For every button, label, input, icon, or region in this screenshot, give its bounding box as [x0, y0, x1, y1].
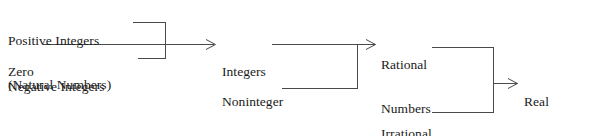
node-irrational-numbers: Irrational Numbers [381, 98, 432, 136]
node-rational-numbers-line1: Rational [381, 58, 431, 73]
node-negative-integers: Negative Integers [8, 51, 104, 124]
number-classification-diagram: Positive Integers (Natural Numbers) Zero… [0, 0, 599, 136]
arrowhead-into-integers [206, 40, 216, 50]
node-noninteger-rational-numbers-line1: Noninteger [222, 95, 283, 110]
node-negative-integers-line1: Negative Integers [8, 80, 104, 95]
node-noninteger-rational-numbers: Noninteger Rational Numbers [222, 66, 283, 136]
arrowhead-into-rational-numbers [366, 40, 376, 50]
arrowhead-into-real-numbers [508, 79, 518, 89]
node-real-numbers: Real Numbers [524, 66, 574, 136]
node-irrational-numbers-line1: Irrational [381, 127, 432, 136]
node-real-numbers-line1: Real [524, 95, 574, 110]
